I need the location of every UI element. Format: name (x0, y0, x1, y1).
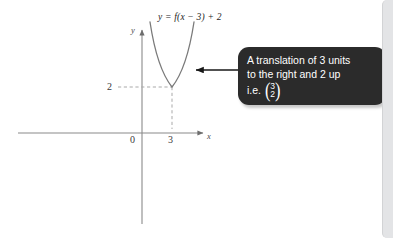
parabola-curve (150, 22, 194, 87)
callout-vector-prefix: i.e. (247, 83, 261, 97)
paren-open-icon: ( (265, 83, 270, 97)
tick-label-x-3: 3 (168, 134, 173, 145)
paren-close-icon: ) (275, 83, 280, 97)
figure-page: y = f(x − 3) + 2 y x 0 2 3 A translation… (0, 0, 406, 238)
callout-line-1: A translation of 3 units (247, 53, 378, 67)
page-edge-margin (393, 0, 406, 238)
callout-vector-row: i.e. ( 3 2 ) (247, 82, 378, 98)
coordinate-graph (0, 0, 406, 238)
annotation-callout: A translation of 3 units to the right an… (238, 47, 386, 105)
tick-label-origin: 0 (130, 134, 135, 145)
tick-label-y-2: 2 (107, 81, 112, 92)
equation-label: y = f(x − 3) + 2 (158, 12, 222, 22)
x-axis-label: x (207, 131, 211, 141)
y-axis-label: y (131, 25, 135, 35)
